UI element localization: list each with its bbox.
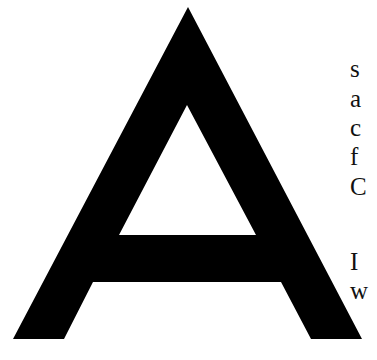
text-line-3: c [350,115,361,140]
text-line-2: a [350,86,361,111]
drop-cap-letter-a [0,0,377,360]
text-line-5: C [350,174,367,199]
text-line-7: w [350,278,368,303]
text-line-4: f [350,144,358,169]
text-line-1: s [350,56,360,81]
text-line-6: I [350,249,358,274]
letter-a-glyph [13,7,362,339]
